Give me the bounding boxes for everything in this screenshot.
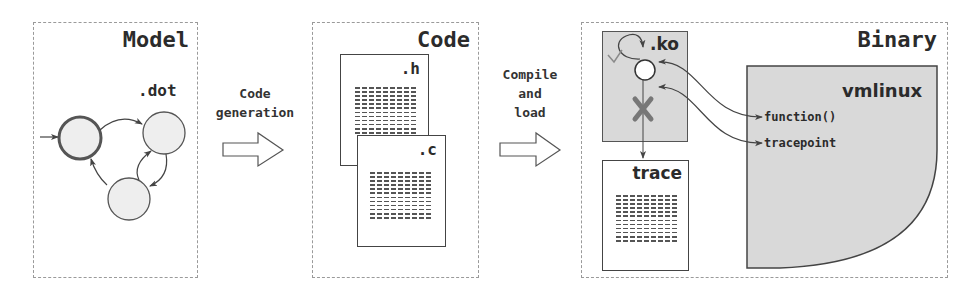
check-icon (608, 50, 622, 62)
monitor-state-icon (635, 60, 655, 80)
module-connections (0, 0, 977, 300)
